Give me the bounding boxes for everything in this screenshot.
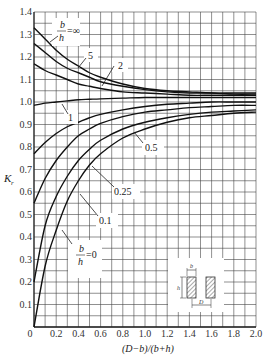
label-0-h: h [78, 256, 83, 267]
inset-label-h: h [177, 285, 180, 291]
kr-chart: b h =∞ 5 2 1 0.5 0.25 0.1 b h =0 b h D 0… [0, 0, 266, 359]
x-tick-label: 0.8 [117, 328, 130, 339]
x-tick-label: 1.4 [183, 328, 196, 339]
x-tick-label: 1.0 [139, 328, 152, 339]
y-tick-label: 1.4 [20, 6, 33, 17]
y-tick-label: 0.6 [20, 186, 33, 197]
y-tick-label: 0.3 [20, 254, 33, 265]
label-01: 0.1 [99, 215, 112, 226]
label-bg-0 [68, 240, 102, 278]
x-tick-label: 0.6 [94, 328, 107, 339]
label-1: 1 [68, 112, 73, 123]
y-tick-label: 1.3 [20, 29, 33, 40]
inset-label-D: D [198, 299, 204, 305]
x-tick-label: 0 [28, 328, 33, 339]
label-0-b: b [79, 243, 84, 254]
conductor-left [187, 277, 196, 298]
label-5: 5 [88, 50, 93, 61]
y-tick-label: 0.2 [20, 276, 33, 287]
x-tick-label: 0.4 [72, 328, 85, 339]
y-tick-label: 0.1 [20, 299, 33, 310]
label-05: 0.5 [145, 142, 158, 153]
x-tick-label: 0.2 [50, 328, 63, 339]
y-tick-label: 0.5 [20, 209, 33, 220]
x-tick-label: 1.6 [205, 328, 218, 339]
x-axis-title: (D−b)/(b+h) [122, 343, 174, 355]
label-inf-eq: =∞ [67, 25, 80, 36]
y-tick-label: 1.0 [20, 96, 33, 107]
y-tick-label: 1.2 [20, 51, 33, 62]
x-tick-label: 2.0 [250, 328, 263, 339]
y-axis-title-sub: r [11, 179, 14, 187]
label-inf-b: b [60, 19, 65, 30]
x-tick-label: 1.8 [228, 328, 241, 339]
label-inf-h: h [59, 32, 64, 43]
y-tick-label: 0.7 [20, 164, 33, 175]
label-2: 2 [118, 60, 123, 71]
y-tick-label: 0.9 [20, 119, 33, 130]
label-025: 0.25 [114, 186, 132, 197]
inset-label-b: b [190, 263, 193, 269]
y-tick-label: 0.4 [20, 231, 33, 242]
label-0-eq: =0 [86, 249, 97, 260]
conductor-right [206, 277, 215, 298]
y-tick-label: 1.1 [20, 74, 33, 85]
x-tick-label: 1.2 [161, 328, 174, 339]
y-tick-label: 0.8 [20, 141, 33, 152]
